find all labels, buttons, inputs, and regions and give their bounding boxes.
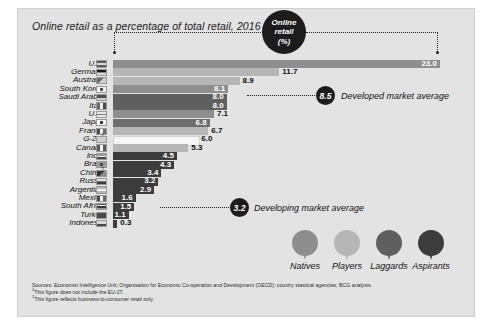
value-bar [113, 102, 227, 110]
footnote-2-text: This figure reflects business-to-consume… [34, 296, 154, 302]
legend-label: Players [327, 261, 367, 271]
pin-tip [344, 249, 350, 260]
callout-leader-right-drop [437, 32, 438, 52]
callout-leader-left [114, 32, 263, 33]
value-label: 6.7 [211, 126, 222, 135]
value-label: 0.3 [120, 218, 131, 227]
value-bar [113, 85, 228, 93]
legend-label: Aspirants [411, 261, 451, 271]
chart-row: Indonesia0.3 [32, 220, 452, 228]
value-label: 23.0 [421, 59, 437, 68]
legend-label: Natives [285, 261, 325, 271]
callout-leader-right-dot [436, 51, 439, 54]
value-bar [113, 94, 227, 102]
footnote-1-text: This figure does not include the EU-27. [34, 289, 124, 295]
callout-leader-left-dot [113, 51, 116, 54]
callout-line-3: (%) [278, 37, 290, 47]
legend-label: Laggards [369, 261, 409, 271]
callout-leader-right [306, 32, 438, 33]
map-pin-icon [334, 230, 360, 260]
value-label: 8.9 [243, 76, 254, 85]
chart-footnotes: Sources: Economist Intelligence Unit; Or… [32, 282, 452, 304]
country-label: Indonesia [0, 218, 104, 227]
map-pin-icon [292, 230, 318, 260]
value-label: 4.3 [160, 160, 171, 169]
value-label: 7.1 [217, 109, 228, 118]
callout-line-2: retail [274, 27, 293, 37]
value-bar [113, 127, 208, 135]
pin-tip [386, 249, 392, 260]
value-label: 6.8 [196, 118, 207, 127]
callout-leader-left-drop [114, 32, 115, 52]
legend-item[interactable]: Laggards [369, 230, 409, 271]
chart-page: Online retail as a percentage of total r… [0, 0, 490, 328]
footnote-2: 2This figure reflects business-to-consum… [32, 296, 452, 303]
pin-tip [302, 249, 308, 260]
legend-item[interactable]: Aspirants [411, 230, 451, 271]
legend-item[interactable]: Natives [285, 230, 325, 271]
value-bar [113, 144, 188, 152]
value-label: 6.0 [201, 134, 212, 143]
bar-chart: U.K.23.0Germany11.7Australia8.9South Kor… [32, 60, 452, 228]
value-label: 2.9 [140, 185, 151, 194]
legend-item[interactable]: Players [327, 230, 367, 271]
page-title: Online retail as a percentage of total r… [32, 20, 261, 32]
callout-line-1: Online [272, 18, 297, 28]
chart-legend: NativesPlayersLaggardsAspirants [285, 230, 455, 282]
value-label: 11.7 [282, 67, 297, 76]
value-bar [113, 60, 440, 68]
pin-tip [428, 249, 434, 260]
value-label: 5.3 [191, 143, 202, 152]
online-retail-callout-bubble: Online retail (%) [262, 10, 306, 54]
value-bar [113, 68, 279, 76]
value-bar [113, 220, 117, 228]
map-pin-icon [418, 230, 444, 260]
map-pin-icon [376, 230, 402, 260]
country-flag-icon [96, 220, 107, 227]
